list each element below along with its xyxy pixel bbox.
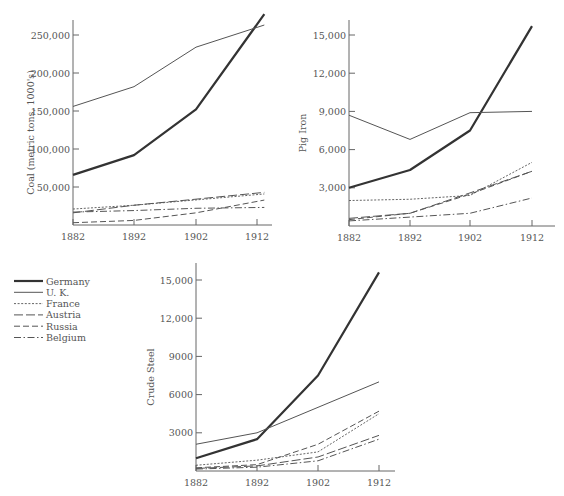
x-tick-label: 1892 [398,232,422,243]
crude-steel-chart: 30006000900012,00015,0001882189219021912… [145,263,395,488]
series-line-austria [349,171,532,218]
x-tick-label: 1912 [520,232,544,243]
series-line-uk [349,111,532,139]
legend-label: U. K. [46,287,69,298]
x-tick-label: 1892 [245,477,269,488]
legend-label: Belgium [46,332,86,343]
x-tick-label: 1902 [306,477,330,488]
y-tick-label: 15,000 [160,275,193,286]
x-tick-label: 1882 [337,232,361,243]
legend-label: France [46,298,80,309]
y-tick-label: 9,000 [319,106,346,117]
series-line-uk [73,25,264,106]
y-tick-label: 6,000 [319,144,346,155]
x-tick-label: 1902 [458,232,482,243]
chart-canvas: 50,000100,000150,000200,000250,000188218… [0,0,564,496]
series-line-france [349,162,532,200]
y-tick-label: 100,000 [31,144,70,155]
y-axis-title: Coal (metric tons, 1000's) [25,70,36,195]
y-tick-label: 150,000 [31,106,70,117]
y-tick-label: 3000 [169,427,193,438]
legend-label: Austria [45,309,81,320]
y-tick-label: 12,000 [160,313,193,324]
x-tick-label: 1882 [184,477,208,488]
series-line-germany [73,14,264,175]
y-tick-label: 50,000 [37,182,70,193]
y-axis-title: Crude Steel [145,348,156,405]
y-tick-label: 15,000 [313,30,346,41]
legend: GermanyU. K.FranceAustriaRussiaBelgium [14,276,91,344]
x-tick-label: 1892 [122,231,146,242]
y-tick-label: 250,000 [31,30,70,41]
y-tick-label: 12,000 [313,68,346,79]
series-line-germany [349,26,532,188]
x-tick-label: 1902 [184,231,208,242]
x-tick-label: 1912 [245,231,269,242]
y-tick-label: 6000 [169,389,193,400]
y-axis-title: Pig Iron [297,114,308,153]
pig-iron-chart: 3,0006,0009,00012,00015,0001882189219021… [297,20,555,243]
series-line-russia [349,171,532,219]
series-line-belgium [349,198,532,221]
y-tick-label: 3,000 [319,182,346,193]
series-line-uk [196,382,379,444]
legend-label: Russia [46,321,78,332]
x-tick-label: 1912 [367,477,391,488]
coal-chart: 50,000100,000150,000200,000250,000188218… [25,14,272,242]
series-line-austria [196,435,379,468]
y-tick-label: 200,000 [31,68,70,79]
x-tick-label: 1882 [61,231,85,242]
legend-label: Germany [46,276,91,287]
y-tick-label: 9000 [169,351,193,362]
